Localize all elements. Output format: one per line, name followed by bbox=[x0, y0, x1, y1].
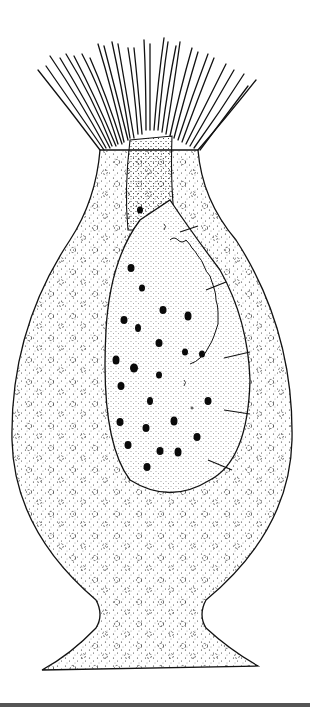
tentacle-crown bbox=[38, 38, 256, 150]
bottom-border-bar bbox=[0, 703, 310, 707]
organism-illustration bbox=[0, 0, 310, 707]
